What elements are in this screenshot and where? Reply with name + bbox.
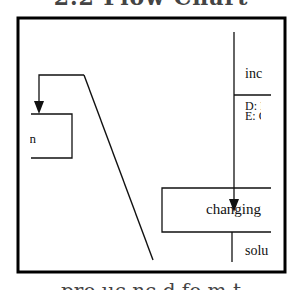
main-box-label: changing	[206, 201, 271, 218]
below-box-label: solu	[245, 243, 271, 259]
outer-frame	[18, 18, 285, 272]
diagonal-connector	[84, 75, 153, 260]
left-box	[31, 114, 72, 158]
left-box-label: n	[30, 131, 36, 147]
flow-line-left	[39, 75, 84, 102]
right-label-e: E: C	[245, 111, 261, 122]
right-label-top: inc	[245, 66, 271, 82]
arrowhead-left-down-icon	[34, 101, 44, 114]
figure-caption-fragment: pro uc nc d fo m t	[0, 280, 302, 290]
